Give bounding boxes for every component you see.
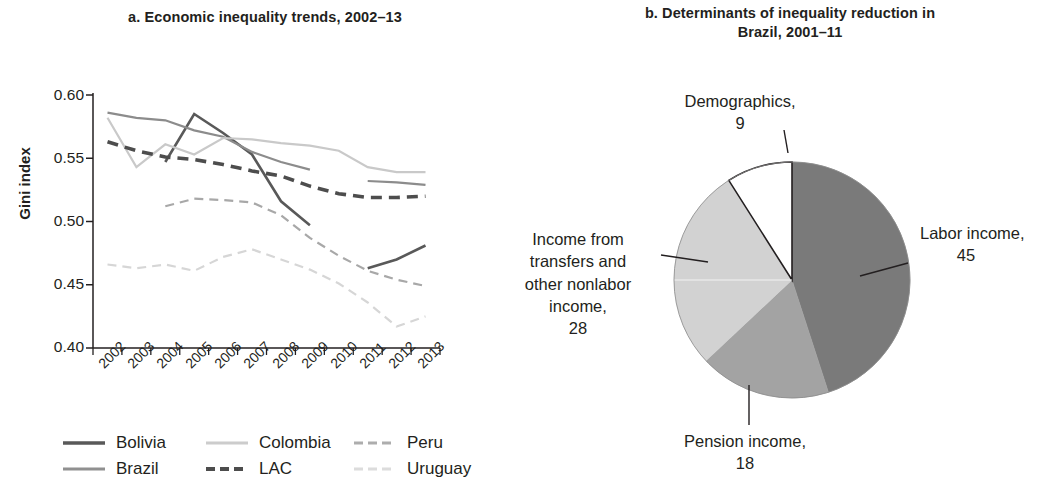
pie-label-pension: Pension income, 18 [630, 430, 860, 475]
pie-label-demographics: Demographics, 9 [660, 90, 820, 135]
pie-label-labor: Labor income, 45 [920, 222, 1045, 267]
pie-slice-group [674, 162, 910, 398]
series-line-brazil [108, 113, 310, 170]
legend-swatch-uruguay [354, 462, 396, 476]
pie-label-transfers: Income from transfers and other nonlabor… [498, 228, 658, 339]
pie-label-transfers-l3: other nonlabor [525, 275, 631, 293]
legend-swatch-bolivia [63, 436, 105, 450]
pie-label-pension-text: Pension income, [684, 432, 806, 450]
pie-label-transfers-l4: income, [549, 297, 607, 315]
legend-label: Uruguay [407, 459, 471, 479]
legend-item-bolivia: Bolivia [63, 433, 206, 453]
legend-item-brazil: Brazil [63, 459, 206, 479]
pie-label-labor-value: 45 [920, 244, 1012, 266]
data-series-group [108, 113, 426, 327]
legend-label: LAC [259, 459, 292, 479]
panel-a-line-chart: a. Economic inequality trends, 2002–13 G… [0, 0, 530, 483]
pie-label-transfers-value: 28 [569, 319, 587, 337]
chart-legend: Bolivia Colombia Peru [63, 430, 503, 482]
legend-item-lac: LAC [206, 459, 354, 479]
legend-label: Peru [407, 433, 443, 453]
legend-swatch-brazil [63, 462, 105, 476]
legend-swatch-peru [354, 436, 396, 450]
series-line-bolivia [165, 114, 310, 225]
legend-label: Colombia [259, 433, 331, 453]
legend-label: Bolivia [116, 433, 166, 453]
figure-root: a. Economic inequality trends, 2002–13 G… [0, 0, 1045, 483]
legend-swatch-lac [206, 462, 248, 476]
pie-label-transfers-l1: Income from [532, 230, 624, 248]
legend-row: Brazil LAC Uruguay [63, 456, 503, 482]
series-line-colombia [108, 118, 426, 172]
pie-label-demographics-value: 9 [735, 114, 744, 132]
pie-label-pension-value: 18 [736, 454, 754, 472]
legend-swatch-colombia [206, 436, 248, 450]
legend-row: Bolivia Colombia Peru [63, 430, 503, 456]
series-line-brazil [368, 181, 426, 185]
series-line-bolivia [368, 246, 426, 269]
pie-label-transfers-l2: transfers and [530, 252, 626, 270]
legend-item-peru: Peru [354, 433, 494, 453]
y-tick-marks [86, 95, 93, 348]
legend-label: Brazil [116, 459, 159, 479]
pie-label-demographics-text: Demographics, [685, 92, 796, 110]
legend-item-uruguay: Uruguay [354, 459, 494, 479]
legend-item-colombia: Colombia [206, 433, 354, 453]
series-line-uruguay [108, 249, 426, 326]
pie-label-labor-text: Labor income, [920, 224, 1025, 242]
